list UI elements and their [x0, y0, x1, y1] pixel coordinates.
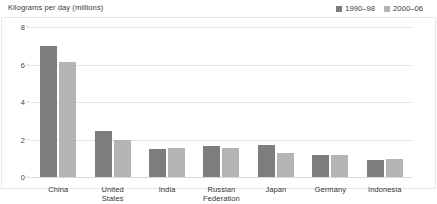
bar-pair	[140, 27, 194, 177]
bar-pair	[358, 27, 412, 177]
chart-legend: 1990–982000–06	[336, 4, 423, 13]
legend-swatch-icon	[336, 6, 342, 12]
gridline	[31, 177, 412, 178]
bar[interactable]	[277, 153, 294, 177]
bar-group: China	[31, 27, 85, 177]
bar[interactable]	[40, 46, 57, 177]
y-axis-tick-mark	[26, 64, 30, 65]
bar-chart-figure: Kilograms per day (millions) 1990–982000…	[0, 0, 437, 204]
x-axis-category-label: Russian Federation	[203, 185, 240, 203]
y-axis-tick-label: 4	[21, 98, 25, 107]
legend-swatch-icon	[384, 6, 390, 12]
bar[interactable]	[59, 62, 76, 177]
bar[interactable]	[222, 148, 239, 177]
bar-pair	[85, 27, 139, 177]
bar-pair	[303, 27, 357, 177]
bar[interactable]	[149, 149, 166, 177]
bar[interactable]	[168, 148, 185, 177]
bar-pair	[194, 27, 248, 177]
legend-entry-0[interactable]: 1990–98	[336, 4, 375, 13]
x-axis-category-label: Germany	[315, 185, 347, 194]
y-axis-tick-mark	[26, 139, 30, 140]
y-axis-tick-label: 8	[21, 23, 25, 32]
x-axis-category-label: Japan	[265, 185, 286, 194]
bar[interactable]	[114, 140, 131, 178]
plot-area: 02468 ChinaUnited StatesIndiaRussian Fed…	[31, 27, 412, 177]
y-axis-tick-mark	[26, 102, 30, 103]
y-axis-tick-mark	[26, 177, 30, 178]
bar[interactable]	[258, 145, 275, 177]
bar-group: Germany	[303, 27, 357, 177]
bar-pair	[249, 27, 303, 177]
y-axis-tick-label: 2	[21, 135, 25, 144]
bar-group: India	[140, 27, 194, 177]
x-axis-category-label: China	[48, 185, 68, 194]
bar[interactable]	[386, 159, 403, 177]
bar-groups: ChinaUnited StatesIndiaRussian Federatio…	[31, 27, 412, 177]
x-axis-category-label: Indonesia	[368, 185, 401, 194]
bar[interactable]	[312, 155, 329, 178]
bar[interactable]	[203, 146, 220, 177]
chart-axis-title: Kilograms per day (millions)	[8, 3, 103, 12]
bar-group: Japan	[249, 27, 303, 177]
bar-group: Russian Federation	[194, 27, 248, 177]
y-axis-tick-label: 0	[21, 173, 25, 182]
bar[interactable]	[331, 155, 348, 177]
bar-group: United States	[85, 27, 139, 177]
y-axis-tick-mark	[26, 27, 30, 28]
legend-entry-1[interactable]: 2000–06	[384, 4, 423, 13]
legend-label: 1990–98	[345, 4, 375, 13]
x-axis-category-label: United States	[99, 185, 126, 203]
y-axis-tick-label: 6	[21, 60, 25, 69]
bar[interactable]	[95, 131, 112, 177]
x-axis-category-label: India	[159, 185, 176, 194]
bar-pair	[31, 27, 85, 177]
bar-group: Indonesia	[358, 27, 412, 177]
bar[interactable]	[367, 160, 384, 177]
legend-label: 2000–06	[393, 4, 423, 13]
